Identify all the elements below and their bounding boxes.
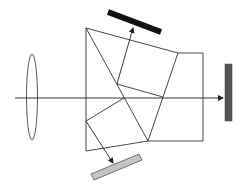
prism-assembly <box>86 28 203 151</box>
lens-icon <box>27 54 38 140</box>
inner-reflection-lower <box>86 98 124 121</box>
beam-to-top-sensor-arrow <box>117 28 133 84</box>
prism-diagonal-1 <box>86 28 148 141</box>
inner-reflection-upper <box>117 84 163 97</box>
sensor-top <box>108 12 161 32</box>
beam-to-bottom-sensor-arrow <box>86 121 113 163</box>
sensor-bottom <box>91 154 142 180</box>
sensor-right <box>225 64 232 121</box>
prism-outline <box>86 28 203 151</box>
prism-diagram <box>0 0 244 196</box>
